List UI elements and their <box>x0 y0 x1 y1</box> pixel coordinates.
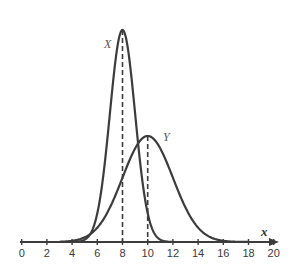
curve-x <box>66 30 173 242</box>
curve-y <box>60 136 249 242</box>
x-tick-label: 16 <box>217 247 229 259</box>
x-tick-label: 12 <box>167 247 179 259</box>
x-tick-label: 8 <box>119 247 125 259</box>
x-axis-label: x <box>260 224 268 239</box>
x-tick-label: 0 <box>19 247 25 259</box>
x-tick-label: 14 <box>192 247 204 259</box>
x-tick-label: 4 <box>69 247 75 259</box>
normal-distribution-chart: 02468101214161820 x X Y <box>0 0 295 270</box>
x-tick-label: 2 <box>44 247 50 259</box>
x-tick-label: 20 <box>268 247 280 259</box>
x-tick-label: 6 <box>94 247 100 259</box>
curve-x-label: X <box>103 37 112 51</box>
curve-y-label: Y <box>163 130 171 144</box>
x-tick-label: 10 <box>142 247 154 259</box>
x-tick-label: 18 <box>242 247 254 259</box>
